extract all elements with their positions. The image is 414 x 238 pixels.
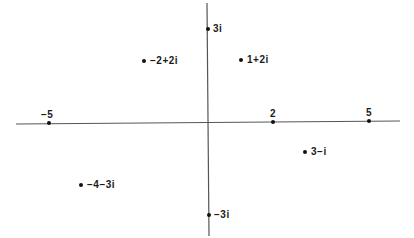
- point-label-1-plus-2i: 1+2i: [247, 55, 269, 65]
- complex-plane-diagram: −5 2 5 3i −2+2i 1+2i 3−i −4−3i −3i: [0, 0, 414, 238]
- tick-label-2: 2: [270, 109, 276, 119]
- point-dot-1-plus-2i: [239, 58, 243, 62]
- point-label-neg4-minus-3i: −4−3i: [87, 180, 115, 190]
- axes-svg: [0, 0, 414, 238]
- tick-dot-neg5: [47, 121, 51, 125]
- tick-dot-2: [271, 120, 275, 124]
- point-label-3-minus-i: 3−i: [311, 147, 327, 157]
- point-dot-neg2-plus-2i: [142, 59, 146, 63]
- tick-label-neg5: −5: [41, 110, 53, 120]
- point-dot-neg4-minus-3i: [79, 183, 83, 187]
- point-dot-neg3i: [207, 213, 211, 217]
- tick-dot-5: [367, 119, 371, 123]
- imaginary-axis: [207, 3, 209, 236]
- point-dot-3i: [206, 27, 210, 31]
- point-dot-3-minus-i: [303, 150, 307, 154]
- point-label-neg2-plus-2i: −2+2i: [150, 56, 178, 66]
- point-label-3i: 3i: [213, 24, 222, 34]
- tick-label-5: 5: [366, 108, 372, 118]
- point-label-neg3i: −3i: [214, 210, 230, 220]
